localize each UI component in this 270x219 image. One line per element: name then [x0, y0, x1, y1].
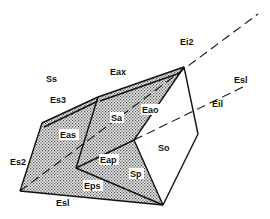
label-eax: Eax — [110, 67, 126, 77]
prism-diagram: Ss Eax Es3 Eas Sa Eao Es2 Eap Sp So Eps … — [0, 0, 270, 219]
label-eil: Eil — [212, 99, 223, 109]
label-esl-right: Esl — [234, 75, 248, 85]
label-es2: Es2 — [10, 157, 26, 167]
label-ss: Ss — [46, 74, 57, 84]
label-sa: Sa — [111, 113, 123, 123]
label-es3: Es3 — [50, 95, 66, 105]
label-so: So — [158, 143, 170, 153]
label-sp: Sp — [130, 169, 142, 179]
label-eps: Eps — [84, 181, 101, 191]
label-eao: Eao — [142, 105, 159, 115]
label-eas: Eas — [60, 130, 76, 140]
label-eap: Eap — [100, 155, 117, 165]
label-esl-bottom: Esl — [56, 198, 70, 208]
label-ei2: Ei2 — [180, 37, 194, 47]
